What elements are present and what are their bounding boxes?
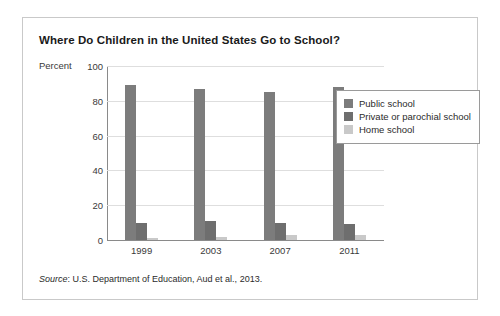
y-tick-label: 40 — [43, 165, 103, 176]
x-tick-label: 2007 — [250, 245, 310, 256]
bar — [355, 235, 366, 240]
y-tick-label: 80 — [43, 95, 103, 106]
y-tick-label: 60 — [43, 130, 103, 141]
x-tick-label: 1999 — [112, 245, 172, 256]
legend-label: Private or parochial school — [359, 111, 471, 122]
bar — [194, 89, 205, 240]
chart-legend: Public schoolPrivate or parochial school… — [336, 90, 480, 144]
x-tick-label: 2011 — [319, 245, 379, 256]
source-note: Source: U.S. Department of Education, Au… — [39, 274, 262, 284]
source-label: Source — [39, 274, 68, 284]
bar — [264, 92, 275, 240]
bar-group-1999 — [125, 66, 158, 240]
y-tick-label: 100 — [43, 61, 103, 72]
legend-item: Private or parochial school — [344, 111, 471, 122]
legend-label: Public school — [359, 98, 415, 109]
bar — [216, 237, 227, 240]
bar — [136, 223, 147, 240]
x-tick-label: 2003 — [181, 245, 241, 256]
y-tick-label: 0 — [43, 235, 103, 246]
bar — [286, 235, 297, 240]
legend-item: Home school — [344, 124, 471, 135]
legend-label: Home school — [359, 124, 414, 135]
y-tick-label: 20 — [43, 200, 103, 211]
bar — [205, 221, 216, 240]
bar-group-2003 — [194, 66, 227, 240]
chart-plot: Percent 020406080100 1999200320072011 — [23, 18, 479, 301]
bar — [125, 85, 136, 240]
legend-item: Public school — [344, 98, 471, 109]
bar-group-2007 — [264, 66, 297, 240]
bar — [275, 223, 286, 240]
bar — [344, 224, 355, 240]
source-text: : U.S. Department of Education, Aud et a… — [68, 274, 263, 284]
legend-swatch-icon — [344, 112, 353, 121]
figure-container: Where Do Children in the United States G… — [22, 17, 478, 300]
legend-swatch-icon — [344, 125, 353, 134]
x-axis-line — [107, 240, 384, 241]
bar — [147, 238, 158, 240]
legend-swatch-icon — [344, 99, 353, 108]
